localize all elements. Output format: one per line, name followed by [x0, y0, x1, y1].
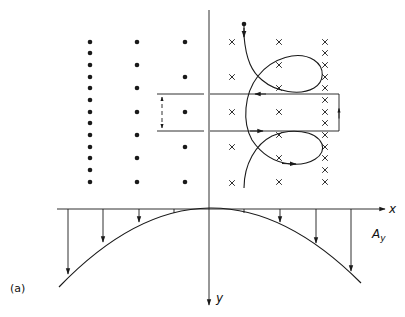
cross-marker	[276, 155, 282, 161]
cross-marker	[322, 85, 328, 91]
dot-marker	[88, 51, 93, 56]
dot-marker	[88, 145, 93, 150]
cross-marker	[229, 74, 235, 80]
panel-label: (a)	[10, 283, 25, 294]
dot-marker	[88, 75, 93, 80]
cross-marker	[322, 167, 328, 173]
particle-trajectory	[242, 22, 323, 188]
dot-marker	[135, 63, 140, 68]
crosses-field-into-page	[229, 39, 328, 186]
dot-marker	[183, 145, 188, 150]
gradient-drift-diagram	[0, 0, 405, 317]
cross-marker	[229, 180, 235, 186]
dot-marker	[183, 110, 188, 115]
cross-marker	[322, 155, 328, 161]
right-arrow-icon	[282, 164, 296, 165]
cross-marker	[322, 39, 328, 45]
dot-marker	[183, 40, 188, 45]
field-label-subscript: y	[380, 233, 385, 243]
cross-marker	[322, 179, 328, 185]
dots-field-out-of-page	[88, 40, 188, 185]
cross-marker	[322, 109, 328, 115]
cross-marker	[276, 39, 282, 45]
dot-marker	[183, 75, 188, 80]
dot-marker	[135, 86, 140, 91]
dot-marker	[88, 86, 93, 91]
dot-marker	[88, 180, 93, 185]
cross-marker	[322, 50, 328, 56]
cross-marker	[276, 62, 282, 68]
dot-marker	[88, 156, 93, 161]
dot-marker	[88, 98, 93, 103]
dot-marker	[135, 180, 140, 185]
dot-marker	[135, 156, 140, 161]
dot-marker	[88, 121, 93, 126]
cross-marker	[322, 74, 328, 80]
field-label-main: A	[372, 227, 380, 241]
dot-marker	[183, 180, 188, 185]
dot-marker	[88, 63, 93, 68]
y-axis-label: y	[216, 292, 223, 304]
cross-marker	[322, 97, 328, 103]
cross-marker	[229, 144, 235, 150]
dot-marker	[88, 40, 93, 45]
cross-marker	[322, 132, 328, 138]
dot-marker	[88, 133, 93, 138]
vector-potential-profile	[59, 208, 361, 287]
cross-marker	[276, 109, 282, 115]
dot-marker	[88, 110, 93, 115]
cross-marker	[322, 120, 328, 126]
x-axis-label: x	[389, 203, 396, 215]
dot-marker	[135, 40, 140, 45]
dot-marker	[135, 110, 140, 115]
coordinate-axes	[57, 10, 385, 305]
cross-marker	[229, 109, 235, 115]
cross-marker	[229, 39, 235, 45]
cross-marker	[322, 62, 328, 68]
dot-marker	[88, 168, 93, 173]
cross-marker	[276, 179, 282, 185]
field-label: Ay	[372, 228, 386, 243]
dot-marker	[135, 133, 140, 138]
